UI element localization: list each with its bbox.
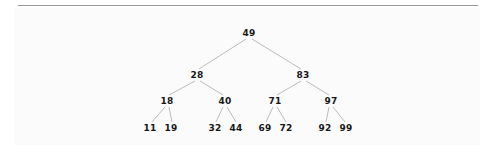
tree-node-18: 18 (160, 97, 173, 106)
tree-edge-n71-n72 (277, 107, 286, 122)
tree-node-72: 72 (279, 124, 292, 133)
tree-edge-n97-n92 (326, 107, 329, 122)
tree-edge-n97-n99 (333, 107, 345, 122)
tree-edge-n18-n11 (152, 107, 165, 122)
tree-node-19: 19 (164, 124, 177, 133)
tree-node-71: 71 (268, 97, 281, 106)
tree-edge-n18-n19 (169, 107, 172, 122)
tree-node-99: 99 (339, 124, 352, 133)
tree-node-28: 28 (190, 71, 203, 80)
figure-canvas: 492883184071971119324469729299 (0, 0, 495, 152)
tree-edge-n83-n71 (277, 81, 301, 95)
tree-node-49: 49 (242, 29, 255, 38)
tree-edge-n40-n44 (227, 107, 236, 122)
tree-node-92: 92 (318, 124, 331, 133)
tree-edges-layer (0, 0, 495, 152)
edge-group (152, 39, 345, 122)
tree-edge-n28-n40 (200, 81, 223, 95)
tree-node-97: 97 (324, 97, 337, 106)
tree-node-69: 69 (258, 124, 271, 133)
tree-node-83: 83 (296, 71, 309, 80)
tree-node-44: 44 (229, 124, 242, 133)
tree-node-40: 40 (218, 97, 231, 106)
tree-node-11: 11 (143, 124, 156, 133)
tree-edge-n71-n69 (266, 107, 273, 122)
tree-edge-n49-n83 (252, 39, 301, 69)
tree-edge-n40-n32 (216, 107, 223, 122)
tree-node-32: 32 (208, 124, 221, 133)
tree-edge-n28-n18 (169, 81, 195, 95)
tree-edge-n83-n97 (306, 81, 329, 95)
tree-edge-n49-n28 (199, 39, 246, 69)
